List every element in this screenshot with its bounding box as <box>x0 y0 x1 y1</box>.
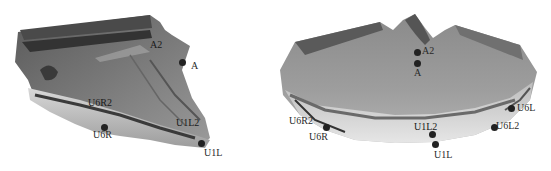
dental-model-frontal-image <box>275 0 551 171</box>
landmark-label-u1l: U1L <box>434 150 452 160</box>
landmark-label-u6l: U6L <box>517 103 535 113</box>
landmark-label-u1l: U1L <box>204 148 222 158</box>
landmark-a2-dot <box>414 49 421 56</box>
landmark-label-a2: A2 <box>150 40 162 50</box>
landmark-a-dot <box>179 59 186 66</box>
landmark-label-a2: A2 <box>422 46 434 56</box>
landmark-label-u6r2: U6R2 <box>88 98 112 108</box>
landmark-u6l-dot <box>508 105 515 112</box>
landmark-label-u1l2: U1L2 <box>176 118 199 128</box>
dental-model-lateral-image <box>0 0 275 171</box>
landmark-label-u6l2: U6L2 <box>496 121 519 131</box>
landmark-a-dot <box>414 60 421 67</box>
landmark-label-u6r: U6R <box>93 130 112 140</box>
landmark-u6r-dot <box>323 124 330 131</box>
landmark-u1l2-dot <box>429 131 436 138</box>
landmark-label-a: A <box>191 61 198 71</box>
landmark-u1l-dot <box>432 141 439 148</box>
landmark-label-a: A <box>414 68 421 78</box>
landmark-label-u1l2: U1L2 <box>414 122 437 132</box>
landmark-label-u6r2: U6R2 <box>289 116 313 126</box>
landmark-u1l-dot <box>198 140 205 147</box>
lateral-view-panel: A2 A U6R2 U1L2 U6R U1L <box>0 0 275 171</box>
landmark-label-u6r: U6R <box>309 132 328 142</box>
frontal-view-panel: A2 A U6L U6R2 U1L2 U6L2 U6R U1L <box>275 0 551 171</box>
